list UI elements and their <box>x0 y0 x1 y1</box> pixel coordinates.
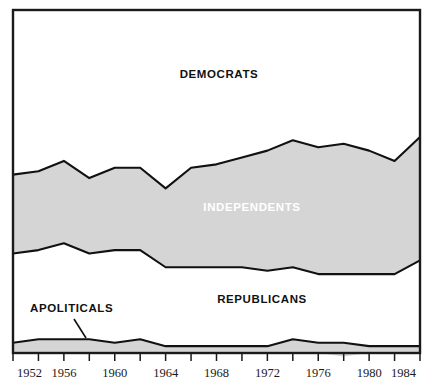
x-axis-tick-label: 1968 <box>204 366 229 380</box>
x-axis-tick-label: 1972 <box>255 366 280 380</box>
label-apoliticals: APOLITICALS <box>30 302 113 314</box>
x-axis-tick-label: 1952 <box>17 366 42 380</box>
x-axis-tick-label: 1960 <box>102 366 127 380</box>
x-axis-tick-label: 1964 <box>153 366 179 380</box>
chart-canvas: 195219561960196419681972197619801984 DEM… <box>0 0 432 383</box>
x-axis-tick-label: 1976 <box>306 366 331 380</box>
party-identification-area-chart: 195219561960196419681972197619801984 DEM… <box>0 0 432 383</box>
x-axis-tick-label: 1984 <box>391 366 417 380</box>
label-independents: INDEPENDENTS <box>203 201 300 213</box>
x-axis-tick-label: 1956 <box>51 366 76 380</box>
x-axis-tick-label: 1980 <box>357 366 382 380</box>
label-republicans: REPUBLICANS <box>217 293 307 305</box>
label-democrats: DEMOCRATS <box>180 68 259 80</box>
x-axis-tick-labels: 195219561960196419681972197619801984 <box>17 366 417 380</box>
